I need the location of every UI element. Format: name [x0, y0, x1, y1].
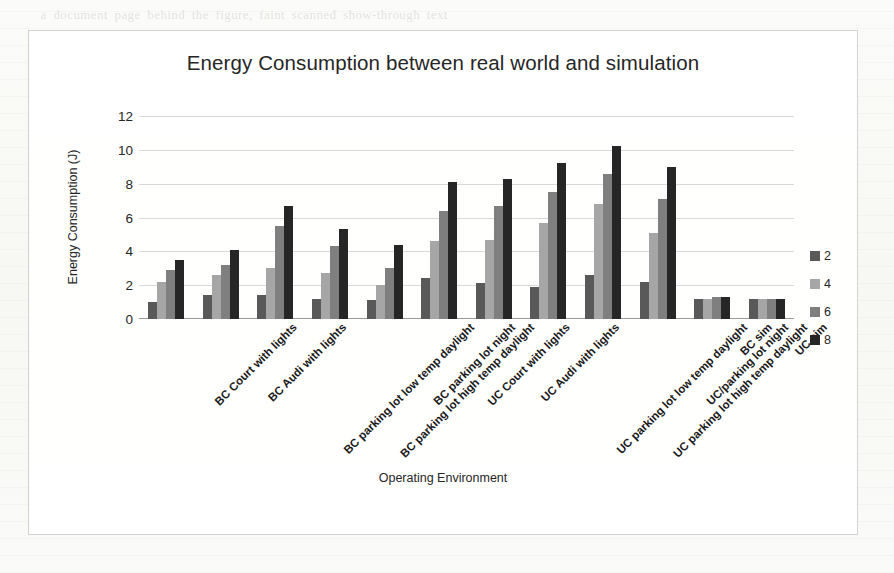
bar-group[interactable] — [685, 116, 740, 319]
bar[interactable] — [758, 299, 767, 319]
bar[interactable] — [649, 233, 658, 319]
legend-item[interactable]: 4 — [810, 278, 880, 290]
bar[interactable] — [530, 287, 539, 319]
bar[interactable] — [503, 179, 512, 319]
bar[interactable] — [212, 275, 221, 319]
plot-area — [139, 116, 794, 319]
bar[interactable] — [485, 240, 494, 320]
bar[interactable] — [385, 268, 394, 319]
bar[interactable] — [548, 192, 557, 319]
y-axis-title: Energy Consumption (J) — [66, 150, 80, 285]
bar[interactable] — [230, 250, 239, 319]
legend-swatch — [810, 251, 820, 261]
legend-label: 8 — [824, 333, 831, 347]
bar[interactable] — [367, 300, 376, 319]
legend-label: 2 — [824, 249, 831, 263]
legend-label: 4 — [824, 277, 831, 291]
bar[interactable] — [284, 206, 293, 319]
bar[interactable] — [376, 285, 385, 319]
bar[interactable] — [257, 295, 266, 319]
bar[interactable] — [448, 182, 457, 319]
bar[interactable] — [439, 211, 448, 319]
chart-figure: Energy Consumption between real world an… — [28, 30, 858, 535]
bar[interactable] — [594, 204, 603, 319]
bar-group[interactable] — [467, 116, 522, 319]
bar[interactable] — [394, 245, 403, 319]
x-axis-tick-label: UC parking lot high temp daylight — [671, 321, 810, 460]
bar[interactable] — [330, 246, 339, 319]
bar[interactable] — [694, 299, 703, 319]
bar-group[interactable] — [630, 116, 685, 319]
legend-swatch — [810, 279, 820, 289]
bar[interactable] — [721, 297, 730, 319]
bar[interactable] — [603, 174, 612, 319]
bar-group[interactable] — [357, 116, 412, 319]
y-axis-tick-label: 8 — [125, 176, 133, 191]
bar-group[interactable] — [576, 116, 631, 319]
bar[interactable] — [703, 299, 712, 319]
x-axis-tick-label: BC parking lot high temp daylight — [398, 321, 537, 460]
x-axis-tick-label: UC/parking lot night — [704, 321, 790, 407]
bar[interactable] — [476, 283, 485, 319]
x-axis-tick-label: BC Court with lights — [213, 321, 300, 408]
bar[interactable] — [166, 270, 175, 319]
bar[interactable] — [157, 282, 166, 319]
bar[interactable] — [275, 226, 284, 319]
x-axis-title: Operating Environment — [29, 471, 857, 485]
bar-group[interactable] — [739, 116, 794, 319]
y-axis-tick-label: 10 — [118, 142, 133, 157]
bar[interactable] — [539, 223, 548, 319]
legend-item[interactable]: 8 — [810, 334, 880, 346]
legend-item[interactable]: 6 — [810, 306, 880, 318]
chart-legend: 2468 — [810, 250, 880, 362]
bar-group[interactable] — [412, 116, 467, 319]
bar[interactable] — [612, 146, 621, 319]
y-axis-tick-label: 2 — [125, 278, 133, 293]
bar-group[interactable] — [303, 116, 358, 319]
bar[interactable] — [557, 163, 566, 319]
legend-item[interactable]: 2 — [810, 250, 880, 262]
bar-group[interactable] — [194, 116, 249, 319]
bar[interactable] — [749, 299, 758, 319]
y-axis-tick-label: 6 — [125, 210, 133, 225]
bar[interactable] — [667, 167, 676, 319]
y-axis-tick-label: 12 — [118, 109, 133, 124]
y-axis-tick-label: 0 — [125, 312, 133, 327]
bar[interactable] — [776, 299, 785, 319]
bar[interactable] — [767, 299, 776, 319]
bar[interactable] — [421, 278, 430, 319]
bar[interactable] — [640, 282, 649, 319]
bar[interactable] — [712, 297, 721, 319]
chart-title: Energy Consumption between real world an… — [29, 51, 857, 75]
bar[interactable] — [175, 260, 184, 319]
y-axis-tick-label: 4 — [125, 244, 133, 259]
legend-swatch — [810, 335, 820, 345]
bar[interactable] — [221, 265, 230, 319]
bar[interactable] — [585, 275, 594, 319]
bar[interactable] — [658, 199, 667, 319]
legend-swatch — [810, 307, 820, 317]
bar[interactable] — [321, 273, 330, 319]
bar-group[interactable] — [139, 116, 194, 319]
bar[interactable] — [494, 206, 503, 319]
bar[interactable] — [203, 295, 212, 319]
bar[interactable] — [148, 302, 157, 319]
bar-group[interactable] — [521, 116, 576, 319]
bar[interactable] — [430, 241, 439, 319]
legend-label: 6 — [824, 305, 831, 319]
bar[interactable] — [312, 299, 321, 319]
bar[interactable] — [266, 268, 275, 319]
bar[interactable] — [339, 229, 348, 319]
y-axis-tick-labels: 024681012 — [101, 116, 133, 319]
bar-group[interactable] — [248, 116, 303, 319]
